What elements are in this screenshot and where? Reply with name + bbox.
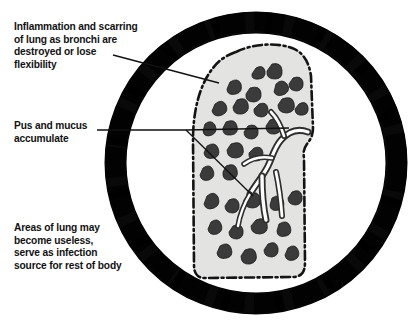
callout-inflammation: Inflammation and scarring of lung as bro… <box>14 21 138 71</box>
callout-areas: Areas of lung may become useless, serve … <box>14 222 122 272</box>
callout-pus: Pus and mucus accumulate <box>14 120 87 145</box>
lung-illustration-figure: Inflammation and scarring of lung as bro… <box>0 0 418 324</box>
